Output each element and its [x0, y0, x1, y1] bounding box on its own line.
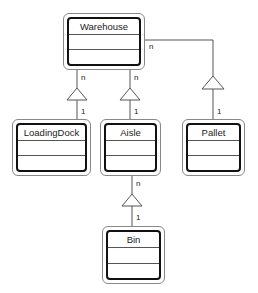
class-aisle[interactable]: Aisle [100, 119, 161, 176]
class-name: Aisle [106, 125, 155, 141]
attributes-section [106, 141, 155, 156]
multiplicity-label: n [136, 180, 140, 188]
class-name: Pallet [188, 125, 239, 141]
triangle-icon [120, 88, 140, 100]
class-body: Bin [106, 230, 161, 280]
attributes-section [188, 141, 239, 156]
class-name: Warehouse [69, 19, 139, 35]
class-pallet[interactable]: Pallet [182, 119, 245, 176]
multiplicity-label: 1 [81, 108, 85, 116]
class-name: LoadingDock [18, 125, 85, 141]
operations-section [188, 156, 239, 170]
multiplicity-label: 1 [134, 108, 138, 116]
class-loadingdock[interactable]: LoadingDock [12, 119, 91, 176]
triangle-icon [202, 76, 224, 89]
operations-section [108, 264, 159, 279]
triangle-icon [67, 88, 87, 100]
operations-section [106, 156, 155, 170]
class-body: Aisle [104, 123, 157, 172]
multiplicity-label: n [149, 43, 153, 51]
connector-warehouse-pallet [145, 40, 213, 76]
multiplicity-label: 1 [217, 108, 221, 116]
operations-section [18, 156, 85, 170]
multiplicity-label: n [134, 74, 138, 82]
attributes-section [108, 248, 159, 264]
multiplicity-label: n [81, 74, 85, 82]
operations-section [69, 50, 139, 64]
class-bin[interactable]: Bin [102, 226, 165, 284]
class-body: Warehouse [67, 17, 141, 66]
class-body: Pallet [186, 123, 241, 172]
attributes-section [18, 141, 85, 156]
multiplicity-label: 1 [136, 214, 140, 222]
class-name: Bin [108, 232, 159, 248]
attributes-section [69, 35, 139, 50]
triangle-icon [122, 194, 142, 206]
class-body: LoadingDock [16, 123, 87, 172]
class-warehouse[interactable]: Warehouse [63, 13, 145, 70]
